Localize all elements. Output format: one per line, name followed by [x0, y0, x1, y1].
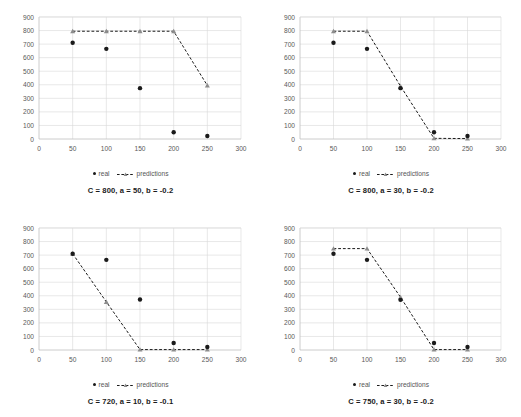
x-tick-label: 200	[168, 356, 179, 363]
chart-subtitle-1: C = 800, a = 30, b = -0.2	[261, 186, 521, 195]
chart-svg-1: 0100200300400500600700800900050100150200…	[261, 0, 521, 165]
legend-predictions-marker-icon	[117, 382, 134, 387]
real-data-point	[205, 345, 209, 349]
x-tick-label: 250	[202, 145, 213, 152]
legend-item-predictions: predictions	[377, 170, 429, 177]
real-data-point	[432, 341, 436, 345]
y-tick-label: 0	[30, 347, 34, 354]
x-tick-label: 0	[37, 145, 41, 152]
x-tick-label: 50	[330, 356, 338, 363]
real-data-point	[104, 258, 108, 262]
y-tick-label: 200	[23, 319, 34, 326]
legend-real-label: real	[359, 381, 370, 388]
y-tick-label: 200	[284, 108, 295, 115]
chart-panel-0: 0100200300400500600700800900050100150200…	[0, 0, 261, 205]
y-tick-label: 900	[23, 14, 34, 21]
y-tick-label: 800	[284, 238, 295, 245]
legend-item-predictions: predictions	[117, 381, 169, 388]
chart-legend-2: real predictions	[0, 381, 261, 388]
x-tick-label: 100	[361, 145, 372, 152]
x-tick-label: 300	[495, 145, 506, 152]
real-data-point	[465, 134, 469, 138]
legend-item-predictions: predictions	[377, 381, 429, 388]
y-tick-label: 100	[284, 122, 295, 129]
y-tick-label: 0	[30, 136, 34, 143]
y-tick-label: 300	[23, 95, 34, 102]
legend-predictions-marker-icon	[377, 382, 394, 387]
legend-item-real: real	[353, 170, 370, 177]
y-tick-label: 500	[284, 279, 295, 286]
legend-real-marker-icon	[93, 172, 96, 175]
chart-svg-2: 0100200300400500600700800900050100150200…	[0, 211, 261, 376]
legend-real-marker-icon	[353, 172, 356, 175]
x-tick-label: 0	[37, 356, 41, 363]
y-tick-label: 300	[23, 306, 34, 313]
y-tick-label: 800	[23, 27, 34, 34]
x-tick-label: 150	[395, 356, 406, 363]
chart-svg-3: 0100200300400500600700800900050100150200…	[261, 211, 521, 376]
chart-legend-3: real predictions	[261, 381, 521, 388]
prediction-point-marker	[104, 299, 109, 303]
y-tick-label: 700	[23, 252, 34, 259]
y-tick-label: 200	[284, 319, 295, 326]
real-data-point	[104, 47, 108, 51]
x-tick-label: 50	[330, 145, 338, 152]
real-data-point	[365, 258, 369, 262]
legend-real-label: real	[99, 170, 110, 177]
real-data-point	[331, 41, 335, 45]
y-tick-label: 100	[284, 333, 295, 340]
y-tick-label: 600	[284, 265, 295, 272]
chart-legend-0: real predictions	[0, 170, 261, 177]
x-tick-label: 0	[298, 145, 302, 152]
y-tick-label: 900	[284, 225, 295, 232]
chart-panel-2: 0100200300400500600700800900050100150200…	[0, 205, 261, 417]
x-tick-label: 50	[69, 145, 77, 152]
y-tick-label: 700	[284, 41, 295, 48]
real-data-point	[331, 252, 335, 256]
chart-subtitle-2: C = 720, a = 10, b = -0.1	[0, 397, 261, 406]
x-tick-label: 250	[462, 356, 473, 363]
chart-panel-1: 0100200300400500600700800900050100150200…	[261, 0, 521, 205]
legend-real-marker-icon	[93, 383, 96, 386]
prediction-point-marker	[365, 29, 370, 33]
x-tick-label: 100	[361, 356, 372, 363]
y-tick-label: 400	[284, 81, 295, 88]
legend-real-marker-icon	[353, 383, 356, 386]
legend-item-predictions: predictions	[117, 170, 169, 177]
y-tick-label: 300	[284, 95, 295, 102]
x-tick-label: 300	[495, 356, 506, 363]
y-tick-label: 800	[23, 238, 34, 245]
x-tick-label: 100	[101, 145, 112, 152]
real-data-point	[398, 298, 402, 302]
legend-item-real: real	[353, 381, 370, 388]
y-tick-label: 800	[284, 27, 295, 34]
real-data-point	[70, 252, 74, 256]
x-tick-label: 300	[235, 145, 246, 152]
legend-item-real: real	[93, 170, 110, 177]
chart-subtitle-0: C = 800, a = 50, b = -0.2	[0, 186, 261, 195]
y-tick-label: 200	[23, 108, 34, 115]
x-tick-label: 200	[428, 356, 439, 363]
prediction-point-marker	[365, 246, 370, 250]
x-tick-label: 250	[202, 356, 213, 363]
real-data-point	[171, 341, 175, 345]
y-tick-label: 100	[23, 333, 34, 340]
real-data-point	[432, 130, 436, 134]
prediction-point-marker	[138, 29, 143, 33]
x-tick-label: 100	[101, 356, 112, 363]
y-tick-label: 600	[23, 54, 34, 61]
y-tick-label: 0	[291, 347, 295, 354]
legend-real-label: real	[99, 381, 110, 388]
y-tick-label: 700	[23, 41, 34, 48]
legend-predictions-label: predictions	[397, 170, 429, 177]
x-tick-label: 250	[462, 145, 473, 152]
y-tick-label: 600	[284, 54, 295, 61]
y-tick-label: 500	[23, 279, 34, 286]
prediction-point-marker	[205, 83, 210, 87]
real-data-point	[205, 134, 209, 138]
real-data-point	[365, 47, 369, 51]
legend-predictions-label: predictions	[137, 170, 169, 177]
y-tick-label: 700	[284, 252, 295, 259]
x-tick-label: 200	[428, 145, 439, 152]
real-data-point	[138, 297, 142, 301]
